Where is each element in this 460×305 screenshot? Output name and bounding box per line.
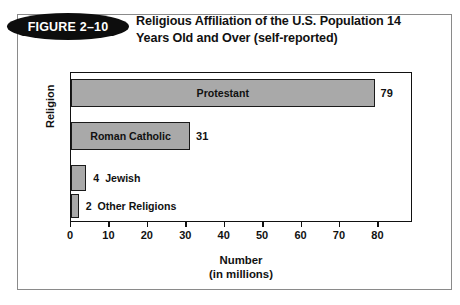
bars-container: Protestant79Roman Catholic314 Jewish2 Ot…: [71, 73, 411, 221]
y-axis-title: Religion: [44, 85, 56, 128]
x-axis-tick-label: 70: [333, 229, 345, 241]
bar-row: 4 Jewish: [71, 165, 413, 191]
figure-number-label: FIGURE 2–10: [28, 20, 109, 34]
figure-title-line-1: Religious Affiliation of the U.S. Popula…: [136, 13, 442, 30]
x-axis-tick-label: 30: [179, 229, 191, 241]
x-axis-title: Number (in millions): [70, 253, 412, 281]
figure-number-badge: FIGURE 2–10: [7, 13, 129, 40]
bar-value-label: 31: [196, 122, 208, 150]
bar-row: Roman Catholic31: [71, 122, 413, 150]
x-axis-tick-label: 0: [67, 229, 73, 241]
x-axis-tick-label: 20: [141, 229, 153, 241]
x-axis-tick-label: 60: [294, 229, 306, 241]
figure-container: FIGURE 2–10 Religious Affiliation of the…: [0, 0, 460, 305]
bar-protestant: [71, 79, 375, 107]
x-axis-tick-mark: [185, 222, 186, 227]
x-axis-tick-label: 80: [371, 229, 383, 241]
x-axis: 01020304050607080: [70, 222, 412, 252]
x-axis-tick-mark: [339, 222, 340, 227]
bar-row: 2 Other Religions: [71, 194, 413, 218]
bar-value-and-category-label: 4 Jewish: [93, 165, 140, 191]
x-axis-tick-mark: [224, 222, 225, 227]
bar-roman-catholic: [71, 122, 190, 150]
x-axis-tick-mark: [377, 222, 378, 227]
bar-value-and-category-label: 2 Other Religions: [86, 194, 177, 218]
x-axis-title-line-1: Number: [70, 253, 412, 267]
x-axis-tick-mark: [147, 222, 148, 227]
x-axis-title-line-2: (in millions): [70, 267, 412, 281]
x-axis-tick-mark: [301, 222, 302, 227]
x-axis-tick-mark: [262, 222, 263, 227]
bar-row: Protestant79: [71, 79, 413, 107]
x-axis-tick-mark: [108, 222, 109, 227]
figure-title-line-2: Years Old and Over (self-reported): [136, 30, 442, 47]
x-axis-tick-label: 40: [218, 229, 230, 241]
plot-area: Protestant79Roman Catholic314 Jewish2 Ot…: [70, 72, 412, 222]
bar-jewish: [71, 165, 86, 191]
figure-title: Religious Affiliation of the U.S. Popula…: [136, 13, 442, 47]
x-axis-tick-label: 50: [256, 229, 268, 241]
x-axis-tick-label: 10: [102, 229, 114, 241]
x-axis-tick-mark: [70, 222, 71, 227]
bar-value-label: 79: [381, 79, 393, 107]
bar-other-religions: [71, 194, 79, 218]
